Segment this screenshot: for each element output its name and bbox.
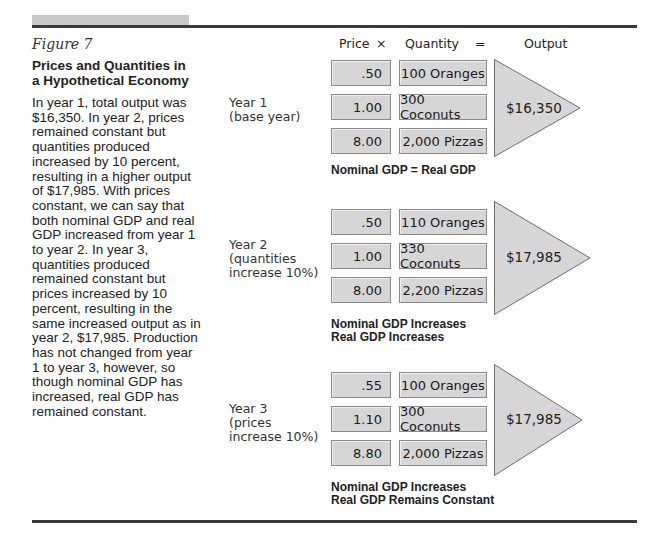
price-box: 1.00: [331, 243, 391, 269]
price-box: 1.00: [331, 94, 391, 120]
price-box: .50: [331, 60, 391, 86]
year-1-label: Year 1 (base year): [229, 96, 300, 124]
quantity-box: 330 Coconuts: [399, 243, 487, 269]
output-value: $16,350: [506, 100, 562, 116]
header-price: Price: [339, 36, 370, 51]
figure-caption: In year 1, total output was $16,350. In …: [32, 96, 202, 419]
year-3-label: Year 3 (prices increase 10%): [229, 402, 318, 444]
gdp-result-label: Nominal GDP Increases Real GDP Remains C…: [331, 481, 494, 507]
quantity-box: 100 Oranges: [399, 372, 487, 398]
header-equals-symbol: =: [475, 36, 485, 51]
gdp-result-label: Nominal GDP Increases Real GDP Increases: [331, 318, 466, 344]
quantity-box: 100 Oranges: [399, 60, 487, 86]
price-box: 8.00: [331, 277, 391, 303]
gdp-result-label: Nominal GDP = Real GDP: [331, 164, 476, 177]
quantity-box: 2,000 Pizzas: [399, 128, 487, 154]
quantity-box: 2,000 Pizzas: [399, 440, 487, 466]
header-times-symbol: ×: [376, 36, 386, 51]
price-box: .55: [331, 372, 391, 398]
bottom-rule: [32, 520, 637, 523]
quantity-box: 2,200 Pizzas: [399, 277, 487, 303]
output-value: $17,985: [506, 249, 562, 265]
price-box: 8.00: [331, 128, 391, 154]
quantity-box: 300 Coconuts: [399, 94, 487, 120]
price-box: 1.10: [331, 406, 391, 432]
quantity-box: 110 Oranges: [399, 209, 487, 235]
price-box: .50: [331, 209, 391, 235]
figure-title: Prices and Quantities in a Hypothetical …: [32, 58, 192, 88]
header-quantity: Quantity: [405, 36, 459, 51]
decorative-top-bar: [32, 15, 189, 25]
price-box: 8.80: [331, 440, 391, 466]
top-rule: [32, 25, 637, 28]
header-output: Output: [524, 36, 567, 51]
figure-label: Figure 7: [32, 36, 93, 52]
year-2-label: Year 2 (quantities increase 10%): [229, 238, 318, 280]
quantity-box: 300 Coconuts: [399, 406, 487, 432]
output-value: $17,985: [506, 411, 562, 427]
